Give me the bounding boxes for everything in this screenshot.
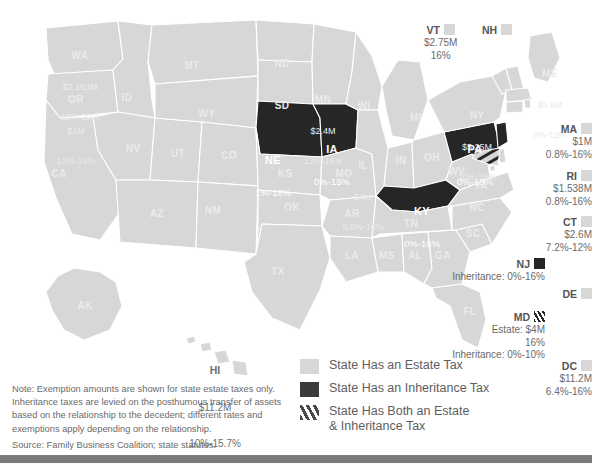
callout-ma: MA$1M0.8%-16%: [546, 123, 592, 161]
legend-label-inheritance: State Has an Inheritance Tax: [329, 381, 489, 396]
state-AR: [322, 196, 376, 238]
note-source: Source: Family Business Coalition; state…: [12, 439, 302, 452]
callout-line: Estate: $4M: [452, 324, 545, 337]
callout-abbr-nh: NH: [482, 24, 512, 37]
callout-swatch-estate-icon: [581, 288, 592, 299]
callout-line: 16%: [452, 337, 545, 350]
callout-abbr-md: MD: [452, 311, 545, 324]
callout-md: MDEstate: $4M16%Inheritance: 0%-10%: [452, 311, 545, 362]
callout-abbr-dc: DC: [546, 360, 592, 373]
callout-line: 16%: [424, 50, 457, 63]
callout-de: DE: [562, 288, 592, 301]
map-legend: State Has an Estate Tax State Has an Inh…: [300, 358, 505, 441]
state-IN: [384, 142, 414, 188]
callout-line: 0.8%-16%: [546, 196, 592, 209]
callout-abbr-vt: VT: [424, 24, 457, 37]
state-LA: [330, 236, 378, 282]
state-UT: [150, 118, 202, 182]
state-RI: [524, 99, 531, 108]
callout-ri: RI$1.538M0.8%-16%: [546, 170, 592, 208]
callout-dc: DC$11.2M6.4%-16%: [546, 360, 592, 398]
state-HI-1: [186, 336, 196, 344]
callout-swatch-estate-icon: [581, 360, 592, 371]
state-ND: [256, 20, 314, 62]
state-DC: [490, 165, 495, 171]
state-MS: [372, 234, 404, 272]
legend-item-estate: State Has an Estate Tax: [300, 358, 505, 374]
state-NE: [256, 101, 322, 157]
legend-swatch-inheritance-icon: [300, 382, 319, 397]
callout-nh: NH: [482, 24, 512, 37]
state-NM: [196, 182, 258, 254]
legend-item-inheritance: State Has an Inheritance Tax: [300, 381, 505, 397]
state-HI-3: [214, 350, 230, 364]
legend-label-both: State Has Both an Estate & Inheritance T…: [329, 404, 469, 434]
state-HI-2: [200, 342, 212, 352]
state-AK: [46, 268, 122, 340]
callout-line: Inheritance: 0%-16%: [452, 271, 545, 284]
note-body: Note: Exemption amounts are shown for st…: [12, 384, 281, 434]
callout-line: 0.8%-16%: [546, 149, 592, 162]
callout-swatch-both-icon: [534, 311, 545, 322]
callout-swatch-estate-icon: [501, 24, 512, 35]
callout-line: 6.4%-16%: [546, 386, 592, 399]
legend-label-estate: State Has an Estate Tax: [329, 358, 463, 373]
state-AZ: [116, 180, 198, 248]
footer-bar: [0, 455, 592, 463]
callout-line: 7.2%-12%: [546, 242, 592, 255]
callout-abbr-ct: CT: [546, 216, 592, 229]
callout-line: $2.75M: [424, 37, 457, 50]
us-tax-map: WA $2.193M 10%-20% OR $1M 10%-16% MN $2.…: [0, 0, 592, 463]
map-note: Note: Exemption amounts are shown for st…: [12, 383, 302, 452]
callout-line: $11.2M: [546, 373, 592, 386]
state-CT: [506, 101, 523, 113]
state-HI-4: [232, 360, 248, 376]
callout-abbr-de: DE: [562, 288, 592, 301]
state-MI: [382, 60, 428, 140]
legend-swatch-estate-icon: [300, 359, 319, 374]
callout-vt: VT$2.75M16%: [424, 24, 457, 62]
callout-swatch-estate-icon: [581, 216, 592, 227]
legend-swatch-both-icon: [300, 405, 319, 420]
state-NJ: [496, 122, 508, 148]
callout-abbr-nj: NJ: [452, 258, 545, 271]
state-MO: [320, 148, 376, 200]
state-MT: [148, 20, 258, 84]
callout-swatch-estate-icon: [444, 24, 455, 35]
callout-swatch-inheritance-icon: [534, 258, 545, 269]
state-ME: [528, 32, 560, 82]
callout-abbr-ri: RI: [546, 170, 592, 183]
callout-line: $2.6M: [546, 229, 592, 242]
callout-swatch-estate-icon: [581, 170, 592, 181]
state-CO: [198, 122, 258, 186]
callout-abbr-ma: MA: [546, 123, 592, 136]
legend-item-both: State Has Both an Estate & Inheritance T…: [300, 404, 505, 434]
callout-line: $1.538M: [546, 183, 592, 196]
state-WA: [46, 21, 123, 74]
state-SD: [258, 60, 313, 104]
callout-ct: CT$2.6M7.2%-12%: [546, 216, 592, 254]
callout-nj: NJInheritance: 0%-16%: [452, 258, 545, 284]
callout-line: $1M: [546, 136, 592, 149]
callout-swatch-estate-icon: [581, 123, 592, 134]
state-OR: [46, 70, 118, 118]
